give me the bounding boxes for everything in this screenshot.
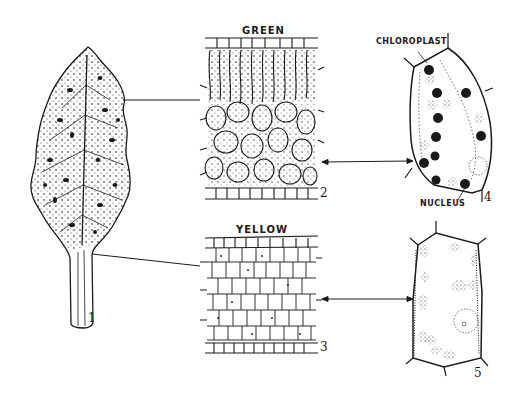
figure-number-4: 4	[484, 190, 492, 204]
green-label: GREEN	[242, 25, 285, 36]
yellow-tissue-section	[200, 236, 322, 353]
yellow-label: YELLOW	[236, 224, 288, 235]
nucleus-label: NUCLEUS	[420, 199, 465, 208]
figure-number-3: 3	[320, 340, 328, 354]
figure-number-2: 2	[320, 186, 328, 200]
figure-number-1: 1	[88, 311, 96, 325]
yellow-cell-arrow	[322, 297, 413, 302]
leaf-illustration	[31, 47, 130, 328]
yellow-cell	[406, 221, 488, 376]
figure-number-5: 5	[474, 366, 482, 380]
leaf-mosaic-diagram: GREEN YELLOW CHLOROPLAST NUCLEUS 1 2 3 4…	[0, 0, 517, 400]
chloroplast-label: CHLOROPLAST	[376, 37, 447, 46]
green-cell-arrow	[322, 159, 413, 165]
green-cell	[404, 33, 493, 202]
green-tissue-section	[200, 38, 324, 199]
